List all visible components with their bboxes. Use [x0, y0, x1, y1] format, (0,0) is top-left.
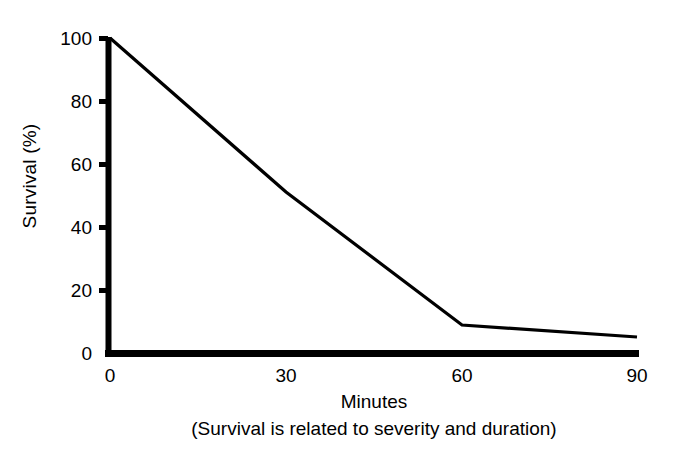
x-tick-label-0: 0	[80, 366, 140, 385]
x-tick-label-60: 60	[432, 366, 492, 385]
x-tick-label-30: 30	[256, 366, 316, 385]
x-tick-label-90: 90	[607, 366, 667, 385]
x-axis-subtitle: (Survival is related to severity and dur…	[58, 418, 676, 440]
chart-figure: Survival (%) 100 80 60 40 20 0 0 30 60 9…	[0, 0, 676, 461]
x-axis-title: Minutes	[108, 391, 640, 413]
